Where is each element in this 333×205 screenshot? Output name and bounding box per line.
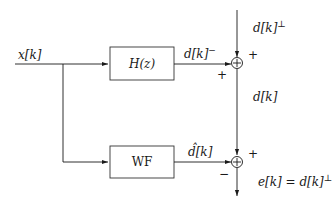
external-input-label: d[k]⊥ — [253, 19, 286, 35]
input-label: x[k] — [18, 48, 42, 62]
hz-block: H(z) — [110, 47, 174, 80]
sum1-left-sign: + — [217, 68, 227, 82]
wf-output-label: d̂[k] — [188, 142, 213, 159]
sum-output-signal: d[k] — [237, 69, 278, 155]
summing-junction-2: + − — [219, 147, 258, 181]
h-output-signal: d[k]− — [174, 45, 231, 64]
hz-label: H(z) — [128, 57, 155, 71]
external-input-signal: d[k]⊥ — [237, 10, 286, 57]
summing-junction-1: + + — [217, 48, 258, 82]
sum2-top-sign: + — [248, 147, 258, 161]
h-output-label: d[k]− — [184, 45, 216, 61]
sum2-left-sign: − — [219, 167, 229, 181]
wf-output-signal: d̂[k] — [174, 142, 231, 162]
final-output-signal: e[k] = d[k]⊥ — [237, 168, 332, 196]
input-signal: x[k] — [15, 48, 108, 64]
branch-to-wf — [63, 64, 108, 162]
sum1-top-sign: + — [248, 48, 258, 62]
wf-label: WF — [132, 155, 153, 169]
sum-output-label: d[k] — [253, 90, 278, 104]
block-diagram: x[k] H(z) WF d[k]− d̂[k] d[k]⊥ + + — [0, 0, 333, 205]
final-output-label: e[k] = d[k]⊥ — [258, 173, 332, 189]
wf-block: WF — [110, 146, 174, 178]
